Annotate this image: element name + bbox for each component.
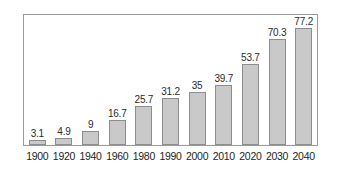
bar-rect [269,39,286,145]
bar-value-label: 4.9 [57,126,70,137]
bar-value-label: 9 [88,119,93,130]
bar-rect [295,28,312,145]
bar-rect [162,98,179,145]
bar-1960: 16.7 [109,15,126,145]
bar-rect [55,138,72,145]
bar-value-label: 3.1 [31,128,44,139]
bar-1980: 25.7 [135,15,152,145]
bar-1900: 3.1 [29,15,46,145]
bar-1940: 9 [82,15,99,145]
bar-rect [82,131,99,145]
x-axis-tick-labels: 1900192019401960198019902000201020202030… [24,150,317,166]
bar-2040: 77.2 [295,15,312,145]
bar-chart: 3.14.9916.725.731.23539.753.770.377.2 19… [0,0,339,174]
bar-2000: 35 [189,15,206,145]
bar-1990: 31.2 [162,15,179,145]
bar-rect [242,64,259,145]
bar-value-label: 53.7 [241,52,260,63]
bar-rect [109,120,126,145]
bar-2020: 53.7 [242,15,259,145]
bar-value-label: 35 [192,80,203,91]
bar-rect [135,106,152,145]
bar-rect [29,140,46,145]
bar-rect [189,92,206,145]
bar-value-label: 31.2 [161,86,180,97]
bar-rect [215,85,232,145]
bar-value-label: 70.3 [268,27,287,38]
bar-value-label: 25.7 [135,94,154,105]
bar-value-label: 16.7 [108,108,127,119]
bar-2010: 39.7 [215,15,232,145]
bar-value-label: 77.2 [294,16,313,27]
bars-layer: 3.14.9916.725.731.23539.753.770.377.2 [24,15,317,145]
x-tick-2040: 2040 [287,150,321,163]
bar-1920: 4.9 [55,15,72,145]
bar-2030: 70.3 [269,15,286,145]
bar-value-label: 39.7 [214,73,233,84]
